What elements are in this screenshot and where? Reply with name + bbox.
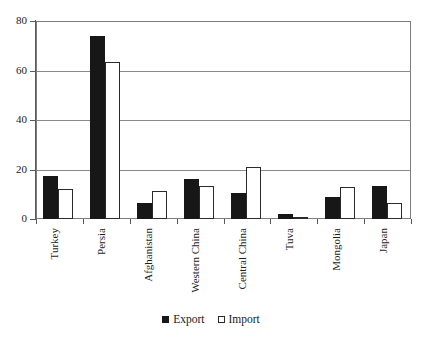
bar-export-persia xyxy=(90,36,105,219)
y-tick-label-80: 80 xyxy=(0,15,27,26)
bar-import-tuva xyxy=(293,217,308,219)
bar-export-mongolia xyxy=(325,197,340,219)
x-tick-mark-0 xyxy=(83,219,84,224)
y-tick-label-0: 0 xyxy=(0,213,27,224)
bar-export-japan xyxy=(372,186,387,219)
legend-swatch-export-icon xyxy=(162,316,169,323)
legend-label-import: Import xyxy=(229,313,260,325)
bar-import-turkey xyxy=(58,189,73,219)
y-tick-label-40: 40 xyxy=(0,114,27,125)
x-axis-label-central-china: Central China xyxy=(235,228,249,289)
legend-label-export: Export xyxy=(173,313,204,325)
x-tick-mark-1 xyxy=(130,219,131,224)
bar-export-tuva xyxy=(278,214,293,219)
bar-import-western-china xyxy=(199,186,214,219)
bar-export-turkey xyxy=(43,176,58,219)
bar-export-afghanistan xyxy=(137,203,152,219)
x-axis-label-persia: Persia xyxy=(94,228,108,255)
bar-import-japan xyxy=(387,203,402,219)
bar-import-central-china xyxy=(246,167,261,219)
bar-import-afghanistan xyxy=(152,191,167,219)
cropped-title-remnant xyxy=(10,0,310,5)
x-axis-label-turkey: Turkey xyxy=(47,228,61,259)
x-tick-mark-3 xyxy=(224,219,225,224)
y-tick-label-20: 20 xyxy=(0,164,27,175)
x-tick-mark-origin xyxy=(36,219,37,224)
bar-chart: 020406080 TurkeyPersiaAfghanistanWestern… xyxy=(0,0,422,340)
x-axis-label-mongolia: Mongolia xyxy=(329,228,343,271)
x-axis-label-japan: Japan xyxy=(376,228,390,253)
bar-import-persia xyxy=(105,62,120,219)
x-tick-mark-2 xyxy=(177,219,178,224)
chart-legend: ExportImport xyxy=(0,313,422,325)
legend-swatch-import-icon xyxy=(218,316,225,323)
x-tick-mark-6 xyxy=(364,219,365,224)
x-axis-label-afghanistan: Afghanistan xyxy=(141,228,155,282)
bar-export-central-china xyxy=(231,193,246,219)
x-axis-label-tuva: Tuva xyxy=(282,228,296,250)
bars-layer xyxy=(36,21,411,219)
x-axis-label-western-china: Western China xyxy=(188,228,202,293)
legend-entry-import: Import xyxy=(218,313,260,325)
x-tick-mark-7 xyxy=(411,219,412,224)
x-tick-mark-5 xyxy=(317,219,318,224)
bar-import-mongolia xyxy=(340,187,355,219)
bar-export-western-china xyxy=(184,179,199,219)
x-tick-mark-4 xyxy=(270,219,271,224)
legend-entry-export: Export xyxy=(162,313,204,325)
y-tick-label-60: 60 xyxy=(0,65,27,76)
